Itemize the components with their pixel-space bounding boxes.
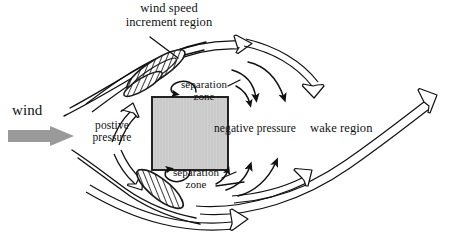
deflection-arrow-up-head [121, 103, 139, 118]
label-negative-pressure: negative pressure [214, 122, 296, 134]
wake-vortex-arrows-upper [232, 62, 284, 104]
label-wind-speed-increment-region: wind speed increment region [106, 2, 232, 29]
wake-arrow-upper-2 [248, 62, 284, 98]
wake-arrow-upper-1 [232, 70, 256, 98]
label-separation-zone-top: separation zone [176, 79, 232, 103]
outlined-streamline-wake-mid [232, 178, 302, 196]
label-wake-region: wake region [310, 122, 373, 136]
label-separation-zone-bottom: separation zone [168, 167, 224, 191]
label-positive-pressure: postive pressure [83, 119, 141, 144]
diagram-canvas [0, 0, 452, 241]
wind-direction-arrow [8, 126, 74, 146]
outlined-streamline-downwash-head [303, 84, 325, 98]
outlined-streamline-over-roof-head [234, 35, 252, 54]
outlined-streamline-wake-head [418, 89, 437, 114]
wake-arrow-upper-3 [236, 86, 250, 104]
wind-flow-diagram: wind speed increment region wind postive… [0, 0, 452, 241]
outlined-streamline-wake-mid-head [294, 169, 312, 187]
wake-arrow-lower-1 [226, 166, 250, 190]
leader-line-separation-bottom [222, 172, 236, 178]
label-wind: wind [12, 102, 42, 118]
